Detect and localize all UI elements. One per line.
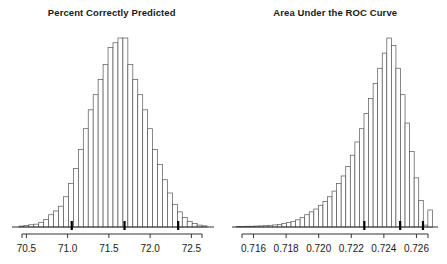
axis-tick-label: 0.720 <box>306 243 331 254</box>
histogram-bar <box>172 204 177 227</box>
histogram-bar <box>73 168 78 227</box>
interval-marker <box>421 221 423 230</box>
histogram-plot-area-under-roc-curve: 0.7160.7180.7200.7220.7240.726 <box>224 0 447 264</box>
histogram-bar <box>391 46 396 227</box>
axis-tick-label: 72.5 <box>182 243 202 254</box>
histogram-bar <box>364 114 369 227</box>
histogram-bar <box>373 83 378 227</box>
tick-axis <box>22 234 202 238</box>
histogram-bar <box>187 221 192 227</box>
histogram-bar <box>113 43 118 227</box>
histogram-bar <box>83 129 88 227</box>
histogram-bar <box>167 193 172 227</box>
interval-marker <box>71 221 73 230</box>
histogram-bar <box>133 80 138 227</box>
interval-marker <box>177 221 179 230</box>
histogram-bar <box>78 150 83 227</box>
histogram-bar <box>336 184 341 227</box>
tick-labels: 70.571.071.572.072.5 <box>17 243 202 254</box>
axis-tick-label: 0.724 <box>371 243 396 254</box>
histogram-bar <box>395 68 400 227</box>
histogram-bar <box>39 222 44 227</box>
histogram-bar <box>405 123 410 227</box>
histogram-bar <box>68 184 73 227</box>
histogram-bar <box>93 95 98 227</box>
histogram-bar <box>354 142 359 227</box>
histogram-bar <box>182 218 187 227</box>
axis-tick-label: 71.5 <box>99 243 119 254</box>
histogram-bar <box>88 110 93 227</box>
histogram-bar <box>359 129 364 227</box>
tick-labels: 0.7160.7180.7200.7220.7240.726 <box>241 243 429 254</box>
figure-container: Percent Correctly Predicted 70.571.071.5… <box>0 0 447 264</box>
histogram-bar <box>153 150 158 227</box>
histogram-bar <box>300 218 305 227</box>
histogram-bar <box>59 206 64 227</box>
histogram-bar <box>148 129 153 227</box>
histogram-bar <box>108 47 113 227</box>
histogram-bar <box>313 209 318 227</box>
axis-tick-label: 70.5 <box>17 243 37 254</box>
histogram-bar <box>382 53 387 227</box>
histogram-bar <box>286 223 291 227</box>
histogram-bar <box>64 197 69 227</box>
histogram-bar <box>332 191 337 227</box>
histogram-bar <box>128 64 133 227</box>
axis-tick-label: 0.718 <box>273 243 298 254</box>
histogram-bar <box>143 110 148 227</box>
histogram-bar <box>158 165 163 227</box>
panel-area-under-roc-curve: Area Under the ROC Curve 0.7160.7180.720… <box>224 0 447 264</box>
histogram-bar <box>427 210 432 227</box>
histogram-bar <box>98 80 103 227</box>
histogram-bar <box>368 98 373 227</box>
interval-marker <box>399 221 401 230</box>
histogram-bar <box>327 197 332 227</box>
histogram-bar <box>123 38 128 227</box>
histogram-bar <box>49 215 54 227</box>
cropped-caption <box>0 254 447 264</box>
histogram-bar <box>118 38 123 227</box>
histogram-bar <box>163 180 168 227</box>
histogram-bar <box>345 167 350 227</box>
histogram-bar <box>44 219 49 227</box>
histogram-bar <box>304 215 309 227</box>
histogram-bar <box>409 151 414 227</box>
histogram-bar <box>138 95 143 227</box>
interval-marker <box>363 221 365 230</box>
histogram-bar <box>295 220 300 227</box>
histogram-bar <box>281 224 286 227</box>
histogram-bar <box>377 68 382 227</box>
histogram-bar <box>309 212 314 227</box>
axis-tick-label: 72.0 <box>140 243 160 254</box>
panel-percent-correctly-predicted: Percent Correctly Predicted 70.571.071.5… <box>0 0 224 264</box>
interval-marker <box>123 221 125 230</box>
histogram-bar <box>318 205 323 227</box>
histogram-plot-percent-correctly-predicted: 70.571.071.572.072.5 <box>0 0 224 264</box>
histogram-bar <box>386 38 391 227</box>
axis-tick-label: 0.726 <box>403 243 428 254</box>
histogram-bar <box>103 64 108 227</box>
histogram-bar <box>414 178 419 227</box>
axis-tick-label: 71.0 <box>58 243 78 254</box>
histogram-bar <box>400 95 405 227</box>
histogram-bar <box>350 155 355 227</box>
histogram-bar <box>341 176 346 227</box>
tick-axis <box>242 234 428 238</box>
histogram-bar <box>322 201 327 227</box>
axis-tick-label: 0.716 <box>241 243 266 254</box>
histogram-bar <box>291 221 296 227</box>
histogram-bars <box>19 38 207 227</box>
histogram-bar <box>54 211 59 227</box>
histogram-bars <box>236 38 432 227</box>
histogram-bar <box>192 224 197 227</box>
axis-tick-label: 0.722 <box>338 243 363 254</box>
